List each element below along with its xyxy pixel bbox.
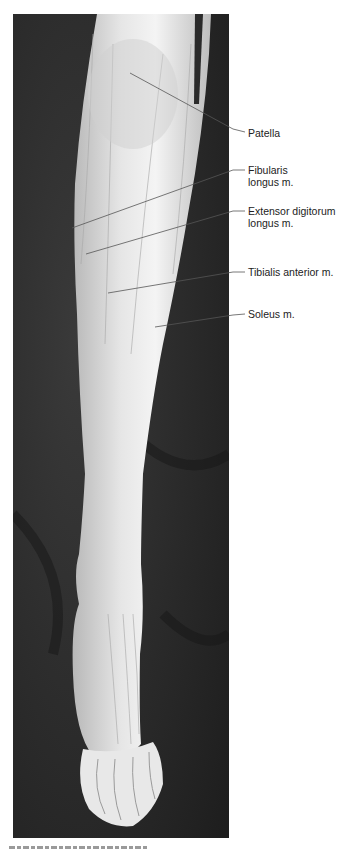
label-tibialis-anterior: Tibialis anterior m. — [248, 266, 333, 278]
leg-silhouette — [13, 14, 229, 838]
label-soleus: Soleus m. — [248, 308, 295, 320]
leader-line-soleus-tail — [233, 314, 245, 315]
label-patella: Patella — [248, 127, 280, 139]
leg-dissection-photo — [13, 14, 229, 838]
truncated-caption — [9, 843, 149, 849]
label-extensor-digitorum-longus: Extensor digitorum longus m. — [248, 205, 336, 229]
anatomy-plate: Patella Fibularis longus m. Extensor dig… — [0, 0, 343, 849]
leader-line-patella-tail — [233, 129, 245, 132]
label-fibularis-longus: Fibularis longus m. — [248, 164, 294, 188]
